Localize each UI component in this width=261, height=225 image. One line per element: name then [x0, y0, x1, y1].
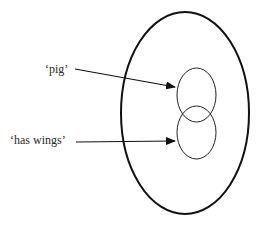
diagram-canvas: ‘pig’ ‘has wings’	[0, 0, 261, 225]
has-wings-label: ‘has wings’	[10, 134, 66, 146]
has-wings-arrow	[76, 141, 175, 142]
pig-label: ‘pig’	[45, 63, 68, 75]
pig-arrow	[75, 69, 175, 87]
outer-ellipse	[121, 12, 249, 214]
venn-diagram	[0, 0, 261, 225]
has-wings-circle	[177, 106, 216, 159]
